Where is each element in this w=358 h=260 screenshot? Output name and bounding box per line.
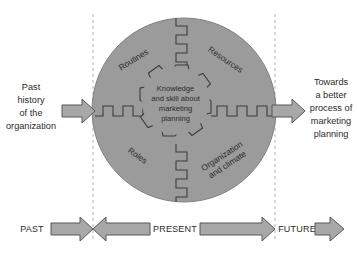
timeline-arrow-present-left	[93, 217, 150, 241]
core-label-line-2: and skill about	[151, 94, 200, 103]
output-label-line-5: planning	[314, 129, 349, 139]
diagram-canvas: Knowledge and skill about marketing plan…	[0, 0, 358, 260]
input-arrow	[62, 99, 95, 123]
input-label: Past history of the organization	[6, 82, 56, 131]
output-label: Towards a better process of marketing pl…	[310, 77, 353, 139]
timeline-arrow-present-right	[200, 217, 275, 241]
timeline: PAST PRESENT FUTURE	[20, 217, 344, 241]
timeline-label-future: FUTURE	[278, 224, 316, 234]
output-label-line-2: a better	[315, 90, 346, 100]
input-label-line-1: Past	[22, 82, 41, 92]
timeline-label-past: PAST	[20, 224, 44, 234]
marketing-planning-diagram: Knowledge and skill about marketing plan…	[0, 0, 358, 260]
timeline-arrow-future-right	[315, 217, 344, 241]
output-label-line-3: process of	[310, 103, 353, 113]
output-label-line-4: marketing	[311, 116, 351, 126]
output-arrow	[272, 99, 305, 123]
output-label-line-1: Towards	[314, 77, 349, 87]
core-label-line-4: planning	[161, 114, 190, 123]
core-gear: Knowledge and skill about marketing plan…	[140, 65, 211, 136]
input-label-line-3: of the	[20, 108, 43, 118]
input-label-line-4: organization	[6, 121, 56, 131]
timeline-arrow-past-right	[51, 217, 93, 241]
core-label-line-3: marketing	[159, 104, 192, 113]
input-label-line-2: history	[17, 95, 44, 105]
timeline-label-present: PRESENT	[153, 224, 197, 234]
core-label-line-1: Knowledge	[157, 84, 195, 93]
